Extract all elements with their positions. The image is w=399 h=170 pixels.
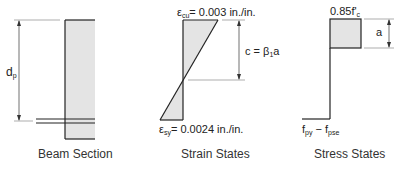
stress-states-caption: Stress States [314, 148, 385, 160]
diagram-canvas [0, 0, 399, 170]
dp-subscript: p [13, 72, 17, 79]
beam-section-figure [14, 20, 95, 139]
strain-states-caption: Strain States [181, 148, 250, 160]
stress-top-prefix: 0.85f' [330, 5, 357, 17]
strain-top-value: = 0.003 in./in. [189, 6, 255, 18]
minus-f: − f [312, 123, 328, 135]
arrow-up-icon [387, 19, 391, 25]
strain-bottom-value: = 0.0024 in./in. [171, 123, 243, 135]
strain-diagram-figure [160, 20, 245, 120]
arrow-down-icon [387, 42, 391, 48]
c-equals-beta: c = β [245, 45, 269, 57]
dp-symbol: d [6, 65, 13, 79]
arrow-up-icon [237, 20, 241, 26]
neutral-axis-label: c = β1a [245, 46, 279, 58]
dp-label: dp [6, 66, 17, 79]
beam-concrete-fill [65, 20, 95, 139]
stress-block-depth-label: a [376, 27, 382, 38]
strain-top-label: εcu= 0.003 in./in. [177, 7, 256, 19]
stress-bottom-label: fpy − fpse [302, 124, 339, 136]
pse-subscript: pse [328, 129, 339, 136]
strain-bottom-label: εsy= 0.0024 in./in. [159, 124, 243, 136]
arrow-down-icon [237, 74, 241, 80]
a-symbol: a [273, 45, 279, 57]
strain-bottom-subscript: sy [164, 129, 171, 136]
stress-top-subscript: c [357, 11, 361, 18]
arrow-up-icon [17, 20, 21, 26]
stress-block-fill [330, 19, 361, 48]
stress-top-label: 0.85f'c [330, 6, 360, 18]
arrow-down-icon [17, 115, 21, 121]
beam-section-caption: Beam Section [38, 148, 113, 160]
